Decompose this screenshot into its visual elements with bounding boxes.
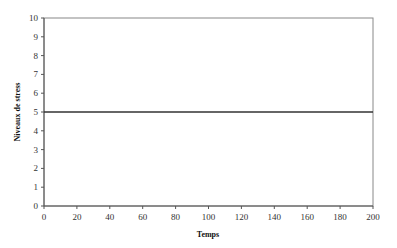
x-tick-label: 100: [202, 212, 216, 222]
x-tick-label: 200: [366, 212, 380, 222]
line-chart: 012345678910 020406080100120140160180200…: [0, 0, 397, 248]
y-tick-label: 9: [34, 32, 39, 42]
y-tick-label: 8: [34, 51, 39, 61]
y-tick-label: 4: [34, 126, 39, 136]
y-tick-label: 2: [34, 163, 39, 173]
x-axis: 020406080100120140160180200: [42, 206, 381, 222]
y-axis-title: Niveaux de stress: [13, 83, 22, 142]
x-tick-label: 0: [42, 212, 47, 222]
y-tick-label: 7: [34, 69, 39, 79]
x-tick-label: 40: [105, 212, 115, 222]
x-tick-label: 140: [268, 212, 282, 222]
y-axis: 012345678910: [29, 13, 44, 211]
y-tick-label: 10: [29, 13, 39, 23]
x-tick-label: 20: [72, 212, 82, 222]
y-tick-label: 6: [34, 88, 39, 98]
x-tick-label: 180: [333, 212, 347, 222]
x-tick-label: 120: [235, 212, 249, 222]
y-tick-label: 1: [34, 182, 39, 192]
y-tick-label: 5: [34, 107, 39, 117]
y-tick-label: 3: [34, 145, 39, 155]
x-axis-title: Temps: [197, 230, 219, 239]
x-tick-label: 60: [138, 212, 148, 222]
x-tick-label: 80: [171, 212, 181, 222]
x-tick-label: 160: [300, 212, 314, 222]
y-tick-label: 0: [34, 201, 39, 211]
